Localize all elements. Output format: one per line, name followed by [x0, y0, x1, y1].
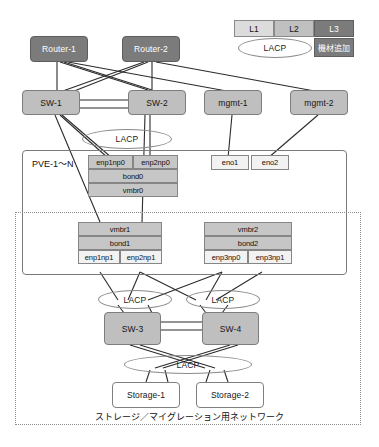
lacp-group-storage: LACP — [124, 355, 252, 374]
node-mgmt-1[interactable]: mgmt-1 — [204, 90, 262, 115]
node-router-1[interactable]: Router-1 — [30, 36, 88, 62]
iface-enp1np1[interactable]: enp1np1 — [78, 250, 120, 264]
legend-add-equipment: 機材追加 — [314, 38, 354, 57]
iface-vmbr0[interactable]: vmbr0 — [88, 183, 178, 197]
iface-enp3np1[interactable]: enp3np1 — [248, 250, 292, 264]
iface-enp1np0[interactable]: enp1np0 — [88, 155, 133, 169]
node-sw-4[interactable]: SW-4 — [202, 312, 259, 345]
iface-enp2np0[interactable]: enp2np0 — [133, 155, 178, 169]
iface-vmbr2[interactable]: vmbr2 — [204, 222, 292, 236]
iface-eno1[interactable]: eno1 — [211, 155, 249, 170]
legend-l3: L3 — [314, 20, 354, 37]
legend-l1: L1 — [234, 20, 274, 37]
iface-eno2[interactable]: eno2 — [251, 155, 289, 170]
diagram-caption: ストレージ／マイグレーション用ネットワーク — [0, 410, 379, 423]
node-storage-2[interactable]: Storage-2 — [196, 382, 264, 408]
lacp-group-sw4: LACP — [186, 290, 260, 309]
lacp-group-sw3: LACP — [98, 290, 172, 309]
node-router-2[interactable]: Router-2 — [122, 36, 180, 62]
node-sw-3[interactable]: SW-3 — [104, 312, 161, 345]
iface-bond0[interactable]: bond0 — [88, 169, 178, 183]
iface-enp2np1[interactable]: enp2np1 — [120, 250, 162, 264]
iface-bond2[interactable]: bond2 — [204, 236, 292, 250]
pve-region-label: PVE-1〜N — [32, 157, 74, 170]
legend-l2: L2 — [274, 20, 314, 37]
network-diagram: L1 L2 L3 LACP 機材追加 Router-1 Router-2 SW-… — [0, 0, 379, 447]
iface-vmbr1[interactable]: vmbr1 — [78, 222, 162, 236]
node-storage-1[interactable]: Storage-1 — [112, 382, 180, 408]
node-sw-1[interactable]: SW-1 — [22, 90, 80, 115]
iface-enp3np0[interactable]: enp3np0 — [204, 250, 248, 264]
storage-migration-region — [15, 212, 361, 425]
node-mgmt-2[interactable]: mgmt-2 — [290, 90, 348, 115]
lacp-group-pve-top: LACP — [82, 129, 172, 149]
node-sw-2[interactable]: SW-2 — [128, 90, 186, 115]
legend-lacp-ellipse: LACP — [238, 38, 312, 58]
iface-bond1[interactable]: bond1 — [78, 236, 162, 250]
